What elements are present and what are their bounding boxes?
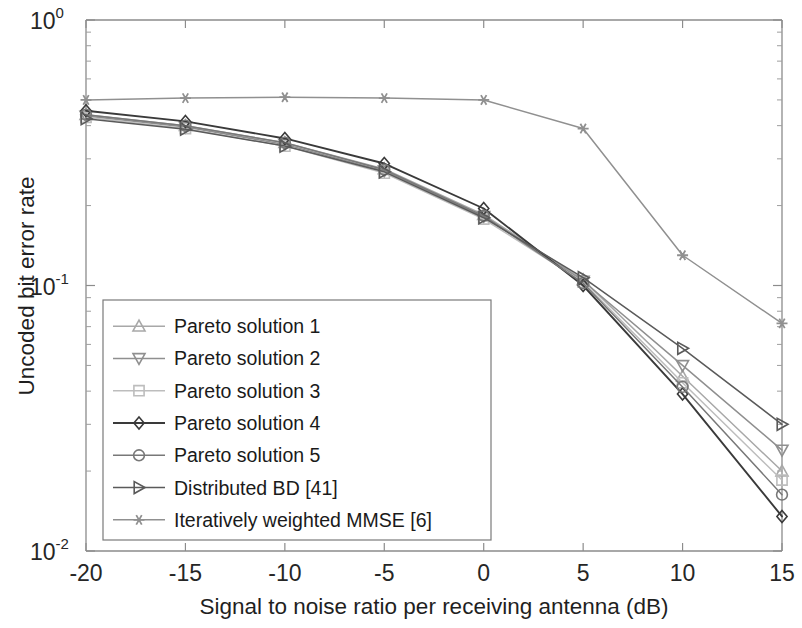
legend-label: Pareto solution 5 (174, 444, 321, 466)
x-tick-label: 15 (769, 560, 795, 586)
legend-label: Pareto solution 2 (174, 347, 320, 369)
chart-legend: Pareto solution 1Pareto solution 2Pareto… (103, 300, 491, 540)
chart-canvas: -20-15-10-5051015 10-210-1100 Signal to … (0, 0, 802, 628)
figure-container: -20-15-10-5051015 10-210-1100 Signal to … (0, 0, 802, 628)
x-tick-label: 5 (577, 560, 590, 586)
legend-label: Pareto solution 3 (174, 380, 320, 402)
data-point (180, 93, 191, 103)
x-tick-label: -5 (374, 560, 394, 586)
y-tick-label: 10-2 (30, 535, 69, 565)
data-point (578, 124, 589, 134)
legend-label: Pareto solution 1 (174, 315, 320, 337)
data-point (478, 95, 489, 105)
legend-label: Distributed BD [41] (174, 477, 338, 499)
legend-label: Iteratively weighted MMSE [6] (174, 509, 432, 531)
data-point (379, 93, 390, 103)
legend-label: Pareto solution 4 (174, 412, 321, 434)
x-tick-label: 10 (670, 560, 696, 586)
data-point (279, 92, 290, 102)
x-tick-label: -15 (169, 560, 202, 586)
x-axis-title: Signal to noise ratio per receiving ante… (199, 594, 668, 619)
y-tick-label: 100 (30, 4, 64, 34)
x-tick-label: -20 (69, 560, 102, 586)
x-tick-labels: -20-15-10-5051015 (69, 560, 794, 586)
x-tick-label: -10 (268, 560, 301, 586)
x-tick-label: 0 (477, 560, 490, 586)
y-axis-title: Uncoded bit error rate (14, 177, 39, 396)
